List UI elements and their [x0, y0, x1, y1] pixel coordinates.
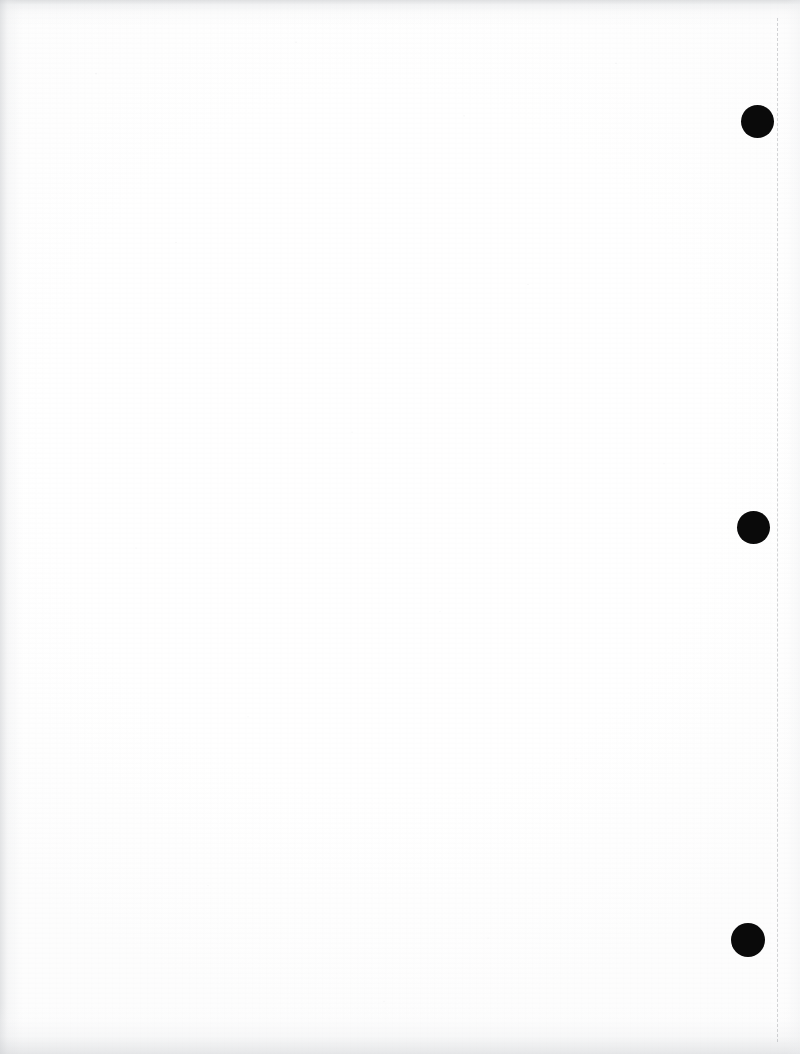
- dashed-fold-line-icon: [777, 18, 778, 1042]
- scan-edge-shadow-left: [0, 0, 22, 1054]
- scan-noise-grain: [0, 0, 800, 1054]
- scan-edge-shadow-bottom: [0, 1004, 800, 1054]
- punch-mark-bottom-icon: [731, 923, 765, 957]
- scan-edge-shadow-right: [786, 0, 800, 1054]
- punch-mark-top-icon: [741, 105, 774, 138]
- punch-mark-middle-icon: [737, 511, 770, 544]
- scanned-page: [0, 0, 800, 1054]
- scan-edge-shadow-top: [0, 0, 800, 26]
